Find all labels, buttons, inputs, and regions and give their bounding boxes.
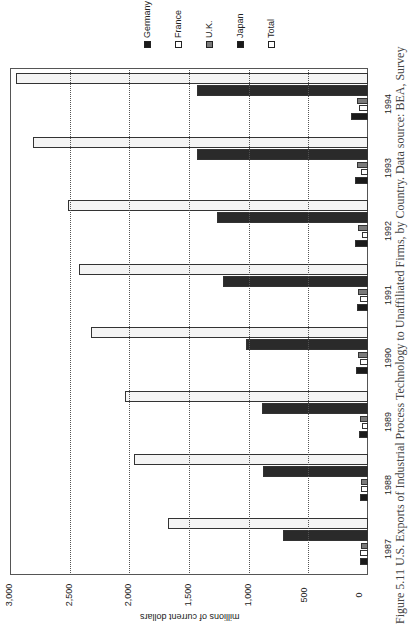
tick-label: 0 <box>354 592 364 597</box>
gridline <box>249 68 250 575</box>
legend-label: Total <box>266 19 276 38</box>
bar-total-1988 <box>134 454 368 465</box>
bar-uk-1992 <box>358 225 368 231</box>
bar-total-1993 <box>33 137 368 148</box>
gridline <box>308 68 309 575</box>
bar-japan-1994 <box>197 85 368 96</box>
bar-france-1991 <box>360 296 368 302</box>
legend-item: Germany <box>142 1 152 48</box>
legend-label: Germany <box>142 1 152 38</box>
category-label: 1992 <box>383 221 393 241</box>
tick-label: 2,500 <box>64 584 74 607</box>
bar-total-1989 <box>125 391 368 402</box>
bar-france-1987 <box>360 550 368 556</box>
bar-uk-1993 <box>357 162 368 168</box>
category-label: 1991 <box>383 284 393 304</box>
category-label: 1989 <box>383 411 393 431</box>
tick-label: 1,000 <box>243 584 253 607</box>
bar-germany-1993 <box>355 177 368 184</box>
legend-item: Japan <box>235 13 245 48</box>
bar-total-1991 <box>79 264 368 275</box>
legend-swatch-icon <box>144 41 151 48</box>
bar-france-1990 <box>360 359 368 365</box>
legend-label: Japan <box>235 13 245 38</box>
bar-germany-1992 <box>355 240 368 247</box>
legend-item: France <box>173 10 183 48</box>
gridline <box>70 68 71 575</box>
tick-label: 500 <box>299 587 309 602</box>
legend-swatch-icon <box>175 41 182 48</box>
bar-japan-1991 <box>223 276 368 287</box>
bar-germany-1988 <box>360 494 368 501</box>
tick-label: 2,000 <box>124 584 134 607</box>
tick-label: 1,500 <box>183 584 193 607</box>
category-label: 1993 <box>383 157 393 177</box>
bar-total-1990 <box>91 327 368 338</box>
legend-item: U.K. <box>204 20 214 48</box>
category-label: 1987 <box>383 538 393 558</box>
bar-france-1994 <box>359 105 368 111</box>
bar-japan-1989 <box>262 403 368 414</box>
legend-label: France <box>173 10 183 38</box>
category-label: 1994 <box>383 94 393 114</box>
bar-france-1988 <box>361 486 368 492</box>
bar-japan-1987 <box>283 530 368 541</box>
bar-uk-1988 <box>361 479 368 485</box>
axis-label: millions of current dollars <box>140 612 240 622</box>
bar-japan-1988 <box>263 466 368 477</box>
bar-japan-1990 <box>246 339 368 350</box>
tick-label: 3,000 <box>4 584 14 607</box>
bar-france-1989 <box>362 423 368 429</box>
bar-germany-1989 <box>359 431 368 438</box>
legend-swatch-icon <box>206 41 213 48</box>
legend-swatch-icon <box>268 41 275 48</box>
bar-japan-1993 <box>197 149 368 160</box>
legend-label: U.K. <box>204 20 214 38</box>
bar-total-1987 <box>168 518 368 529</box>
bar-france-1993 <box>361 169 368 175</box>
bar-germany-1991 <box>357 304 368 311</box>
bar-uk-1987 <box>361 543 368 549</box>
bar-uk-1989 <box>360 416 368 422</box>
bar-germany-1987 <box>360 558 368 565</box>
bar-uk-1994 <box>357 98 368 104</box>
category-label: 1988 <box>383 475 393 495</box>
legend-swatch-icon <box>237 41 244 48</box>
bar-uk-1991 <box>358 289 368 295</box>
bar-total-1992 <box>68 200 368 211</box>
bar-uk-1990 <box>358 352 368 358</box>
bar-germany-1990 <box>356 367 368 374</box>
gridline <box>189 68 190 575</box>
bar-germany-1994 <box>351 113 368 120</box>
bar-france-1992 <box>362 232 368 238</box>
bar-japan-1992 <box>217 212 368 223</box>
gridline <box>129 68 130 575</box>
legend-item: Total <box>266 19 276 48</box>
figure-caption: Figure 5.11 U.S. Exports of Industrial P… <box>393 47 408 624</box>
category-label: 1990 <box>383 348 393 368</box>
